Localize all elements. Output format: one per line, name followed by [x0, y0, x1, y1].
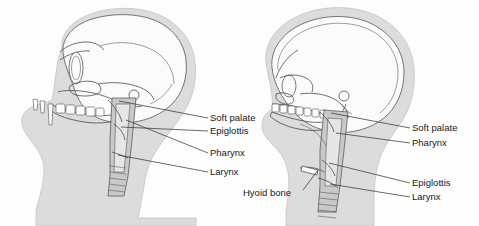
- label-human-larynx: Larynx: [412, 191, 441, 202]
- ape-eye-socket: [69, 52, 83, 84]
- ape-canine-tooth: [48, 104, 53, 125]
- label-human-soft-palate: Soft palate: [412, 122, 457, 133]
- human-tooth-6: [312, 109, 319, 117]
- ape-incisor-2: [33, 99, 38, 110]
- human-tooth-1: [272, 104, 279, 112]
- human-eye-socket: [282, 75, 296, 97]
- label-ape-soft-palate: Soft palate: [210, 112, 255, 123]
- human-tooth-3: [288, 106, 295, 114]
- human-tooth-5: [304, 108, 311, 116]
- label-human-hyoid-bone: Hyoid bone: [243, 187, 291, 198]
- label-ape-pharynx: Pharynx: [210, 147, 245, 158]
- human-tooth-4: [296, 107, 303, 115]
- ape-incisor-1: [40, 101, 45, 113]
- ape-molar-3: [76, 106, 85, 115]
- label-ape-larynx: Larynx: [210, 166, 239, 177]
- ape-molar-1: [56, 104, 65, 113]
- ape-molar-5: [96, 108, 104, 116]
- left-figure-group: Soft palate Epiglottis Pharynx Larynx: [22, 8, 256, 226]
- ape-molar-2: [66, 105, 75, 114]
- label-human-pharynx: Pharynx: [412, 137, 447, 148]
- label-human-epiglottis: Epiglottis: [412, 177, 451, 188]
- ape-molar-4: [86, 107, 95, 116]
- figure-canvas: Soft palate Epiglottis Pharynx Larynx: [0, 0, 479, 226]
- anatomy-figure: Soft palate Epiglottis Pharynx Larynx: [0, 0, 479, 226]
- human-tooth-2: [280, 105, 287, 113]
- right-figure-group: Soft palate Pharynx Epiglottis Larynx Hy…: [243, 8, 457, 226]
- label-ape-epiglottis: Epiglottis: [210, 125, 249, 136]
